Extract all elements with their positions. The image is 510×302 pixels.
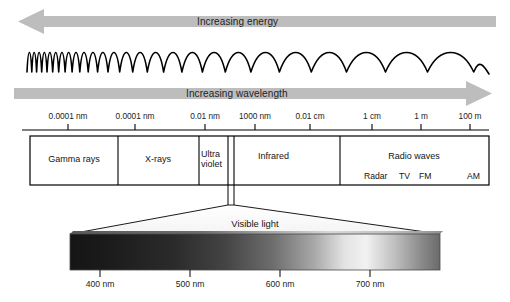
electromagnetic-spectrum-figure: Increasing energy Increasing wavelength …	[0, 0, 510, 302]
wavelength-scale-axis	[22, 124, 489, 130]
sub-band-label-radar: Radar	[364, 172, 387, 181]
sine-wave-shape	[27, 53, 489, 75]
increasing-wavelength-label: Increasing wavelength	[186, 89, 288, 99]
visible-light-title: Visible light	[231, 219, 278, 228]
visible-tick-label-600: 600 nm	[266, 280, 295, 289]
scale-tick-label-4: 1000 nm	[239, 112, 271, 120]
sub-band-label-tv: TV	[399, 172, 410, 181]
visible-tick-label-400: 400 nm	[86, 280, 115, 289]
band-label-gamma-rays: Gamma rays	[48, 155, 100, 164]
increasing-energy-label: Increasing energy	[197, 17, 278, 27]
scale-tick-label-5: 0.01 cm	[295, 112, 324, 120]
band-label-ultra-violet: Ultra violet	[201, 149, 229, 169]
band-label-ultra-violet-line2: violet	[201, 159, 229, 169]
band-label-infrared: Infrared	[258, 152, 289, 161]
visible-light-gradient-bar	[70, 231, 443, 270]
visible-light-tick-marks	[100, 270, 370, 277]
scale-tick-label-6: 1 cm	[363, 112, 381, 120]
sub-band-label-am: AM	[467, 172, 480, 181]
band-label-radio-waves: Radio waves	[388, 152, 440, 161]
sub-band-label-fm: FM	[419, 172, 431, 181]
scale-tick-label-7: 1 m	[414, 112, 428, 120]
scale-tick-label-1: 0.0001 nm	[49, 112, 88, 120]
visible-tick-label-700: 700 nm	[356, 280, 385, 289]
scale-tick-label-8: 100 m	[459, 112, 482, 120]
band-label-ultra-violet-line1: Ultra	[201, 149, 229, 159]
scale-tick-label-3: 0.01 nm	[190, 112, 220, 120]
band-label-x-rays: X-rays	[145, 155, 171, 164]
visible-tick-label-500: 500 nm	[176, 280, 205, 289]
scale-tick-label-2: 0.0001 nm	[116, 112, 155, 120]
